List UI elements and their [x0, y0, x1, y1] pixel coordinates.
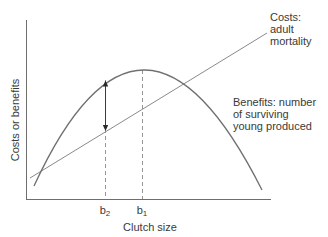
benefits-label-line3: young produced: [233, 120, 316, 132]
costs-line: [30, 33, 267, 178]
tick-b1-sub: 1: [143, 209, 147, 218]
benefits-curve: [34, 70, 262, 190]
benefits-label-line2: of surviving: [233, 108, 316, 120]
difference-arrow: [103, 81, 108, 132]
costs-label-line2: adult: [270, 23, 312, 35]
tick-b2-sub: 2: [106, 209, 110, 218]
costs-label-line3: mortality: [270, 35, 312, 47]
x-axis-label: Clutch size: [123, 221, 177, 233]
y-axis-label: Costs or benefits: [9, 79, 21, 162]
benefits-label-line1: Benefits: number: [233, 96, 316, 108]
tick-b1: b1: [137, 204, 148, 218]
costs-label: Costs: adult mortality: [270, 11, 312, 47]
benefits-label: Benefits: number of surviving young prod…: [233, 96, 316, 132]
tick-b2: b2: [100, 204, 111, 218]
costs-label-line1: Costs:: [270, 11, 312, 23]
